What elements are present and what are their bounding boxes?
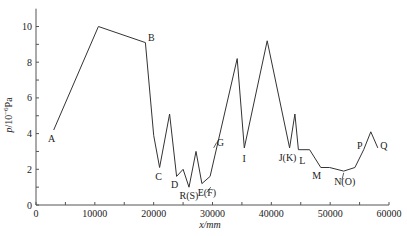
x-tick-label: 60000 (377, 208, 402, 219)
x-axis-title: x/mm (198, 219, 221, 230)
data-line (54, 27, 378, 188)
point-label: B (148, 32, 155, 43)
x-tick-label: 0 (34, 208, 39, 219)
point-label: Q (380, 140, 388, 151)
point-label: J(K) (279, 152, 297, 164)
y-tick-label: 6 (27, 92, 32, 103)
y-tick-label: 2 (27, 164, 32, 175)
chart: 01000020000300004000050000600000246810 A… (0, 0, 407, 236)
point-label: R(S) (180, 190, 199, 202)
y-axis-title: p/10−6Pa (2, 97, 14, 134)
point-label: P (357, 140, 363, 151)
x-tick-label: 10000 (82, 208, 107, 219)
point-label: M (312, 170, 321, 181)
x-tick-label: 50000 (318, 208, 343, 219)
x-tick-label: 30000 (200, 208, 225, 219)
point-label: N(O) (334, 176, 355, 188)
point-label: A (48, 133, 56, 144)
y-tick-label: 8 (27, 57, 32, 68)
x-tick-label: 40000 (259, 208, 284, 219)
point-label: G (217, 137, 224, 148)
y-tick-label: 0 (27, 200, 32, 211)
point-label: C (155, 171, 162, 182)
y-tick-label: 4 (27, 128, 32, 139)
point-label: I (243, 153, 246, 164)
point-label: D (171, 179, 178, 190)
x-tick-label: 20000 (141, 208, 166, 219)
y-tick-label: 10 (22, 21, 32, 32)
point-label: L (299, 155, 305, 166)
point-labels: ABCDR(S)E(F)GIJ(K)LMN(O)PQ (48, 32, 388, 203)
